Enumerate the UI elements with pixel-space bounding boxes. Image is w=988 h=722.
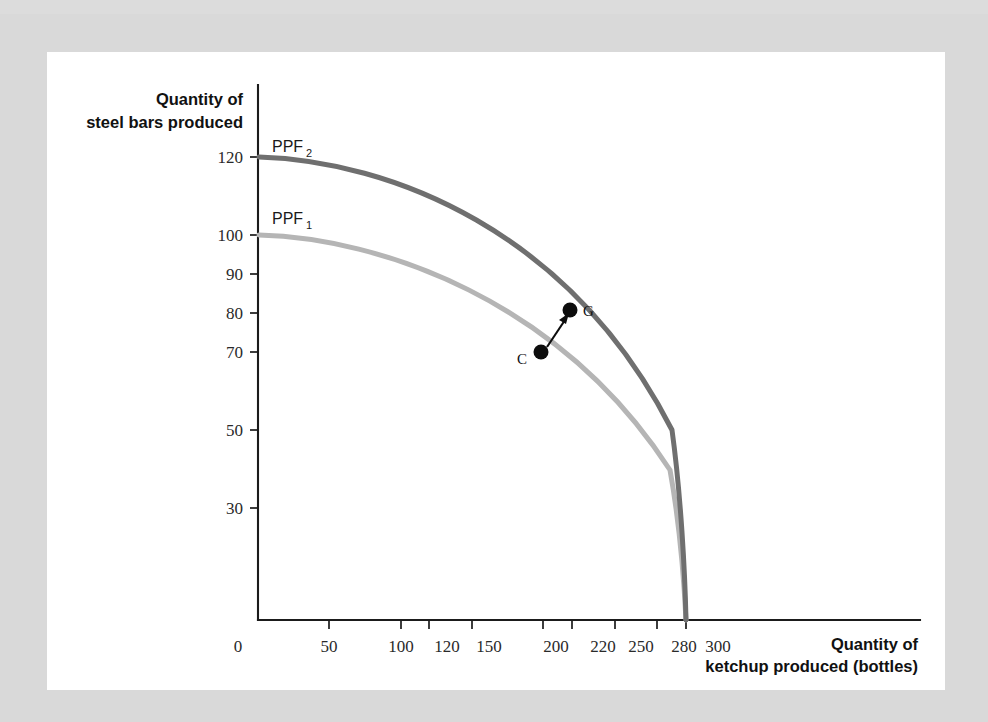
ppf2-label-text: PPF [272,138,303,155]
x-tick-label-50: 50 [321,637,338,656]
point-c-label: C [517,351,527,367]
y-tick-label-70: 70 [226,343,243,362]
point-g-dot [563,303,578,318]
y-tick-label-90: 90 [226,265,243,284]
x-axis-title-line1: Quantity of [831,635,919,653]
point-c: C [517,345,549,368]
x-tick-label-220: 220 [590,637,616,656]
x-tick-label-0: 0 [234,637,243,656]
x-tick-label-100: 100 [388,637,414,656]
ppf1-label-text: PPF [272,210,303,227]
y-axis-ticks [250,157,258,508]
point-g-label: G [583,303,594,319]
ppf1-curve [259,235,686,620]
x-tick-label-280: 280 [671,637,697,656]
y-tick-label-30: 30 [226,499,243,518]
ppf2-curve [259,157,686,620]
x-tick-label-300: 300 [705,637,731,656]
y-axis-title-line1: Quantity of [156,90,244,108]
x-axis-title-line2: ketchup produced (bottles) [705,657,918,675]
growth-arrow [547,313,569,347]
ppf1-label: PPF 1 [272,210,312,231]
y-tick-label-50: 50 [226,421,243,440]
x-tick-label-120: 120 [434,637,460,656]
x-axis-ticks [329,620,686,629]
x-tick-label-150: 150 [476,637,502,656]
y-tick-label-80: 80 [226,304,243,323]
ppf1-label-subscript: 1 [306,219,312,231]
x-tick-label-250: 250 [628,637,654,656]
point-g: G [563,303,595,320]
point-c-dot [534,345,549,360]
figure-page: 120 100 90 80 70 50 30 0 50 100 120 150 … [0,0,988,722]
y-axis-title-line2: steel bars produced [86,113,243,131]
x-tick-label-200: 200 [543,637,569,656]
ppf2-label-subscript: 2 [306,147,312,159]
y-tick-label-100: 100 [218,226,244,245]
y-tick-label-120: 120 [218,148,244,167]
ppf-chart: 120 100 90 80 70 50 30 0 50 100 120 150 … [0,0,988,722]
